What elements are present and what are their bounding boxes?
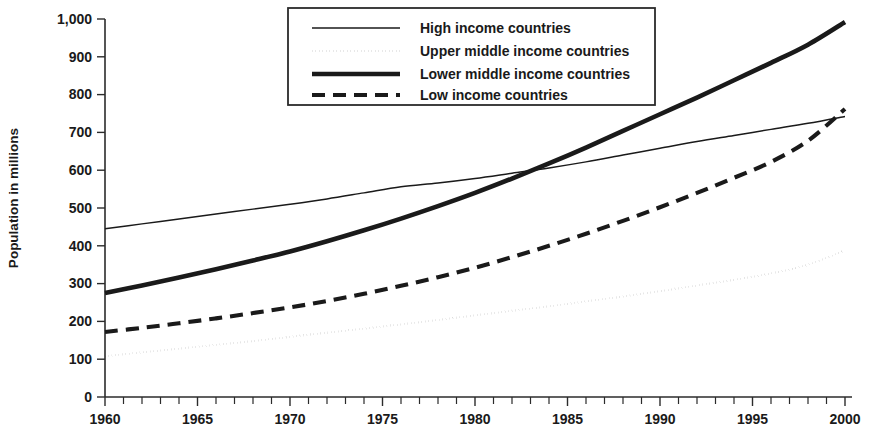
y-tick-label: 800 bbox=[69, 86, 93, 102]
y-tick-label: 300 bbox=[69, 275, 93, 291]
y-axis: 01002003004005006007008009001,000 bbox=[57, 11, 105, 405]
x-tick-label: 1960 bbox=[89, 411, 120, 427]
y-axis-title: Population in millions bbox=[6, 128, 21, 268]
y-tick-label: 700 bbox=[69, 124, 93, 140]
series-line-3 bbox=[105, 109, 845, 332]
x-tick-label: 1970 bbox=[274, 411, 305, 427]
y-tick-label: 200 bbox=[69, 313, 93, 329]
legend-label-3: Low income countries bbox=[420, 87, 568, 103]
y-tick-label: 0 bbox=[84, 389, 92, 405]
y-tick-group: 01002003004005006007008009001,000 bbox=[57, 11, 105, 405]
legend-label-2: Lower middle income countries bbox=[420, 66, 630, 82]
y-tick-label: 1,000 bbox=[57, 11, 92, 27]
series-line-0 bbox=[105, 117, 845, 229]
y-tick-label: 400 bbox=[69, 238, 93, 254]
legend-label-0: High income countries bbox=[420, 20, 571, 36]
x-tick-label: 1980 bbox=[459, 411, 490, 427]
legend-label-1: Upper middle income countries bbox=[420, 43, 629, 59]
y-tick-label: 600 bbox=[69, 162, 93, 178]
x-tick-label: 2000 bbox=[829, 411, 860, 427]
population-line-chart: Population in millions 01002003004005006… bbox=[0, 0, 875, 444]
legend: High income countriesUpper middle income… bbox=[288, 8, 655, 105]
chart-container: Population in millions 01002003004005006… bbox=[0, 0, 875, 444]
x-tick-label: 1985 bbox=[552, 411, 583, 427]
x-tick-label: 1990 bbox=[644, 411, 675, 427]
y-tick-label: 900 bbox=[69, 49, 93, 65]
x-tick-label: 1965 bbox=[182, 411, 213, 427]
x-tick-group: 196019651970197519801985199019952000 bbox=[89, 397, 860, 427]
y-tick-label: 100 bbox=[69, 351, 93, 367]
y-tick-label: 500 bbox=[69, 200, 93, 216]
x-tick-label: 1995 bbox=[737, 411, 768, 427]
x-tick-label: 1975 bbox=[367, 411, 398, 427]
x-axis: 196019651970197519801985199019952000 bbox=[89, 397, 860, 427]
series-line-1 bbox=[105, 250, 845, 356]
